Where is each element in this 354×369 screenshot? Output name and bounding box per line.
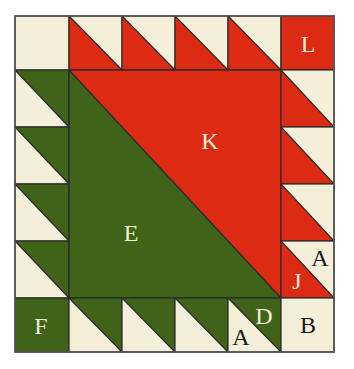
corner-top-left [15,16,69,70]
label-E: E [124,220,139,246]
top-triangle-4 [228,16,281,70]
center-square: K E [69,70,281,298]
left-triangle-1 [15,70,69,127]
bottom-triangle-3 [175,298,228,352]
bottom-triangle-2 [122,298,175,352]
label-F: F [34,313,47,339]
corner-top-right: L [281,16,334,70]
bottom-border: D A [69,298,281,352]
label-L: L [301,31,316,57]
left-triangle-3 [15,184,69,241]
right-triangle-2 [281,127,334,184]
top-triangle-2 [122,16,175,70]
bottom-triangle-4: D A [228,298,281,352]
label-J: J [292,268,301,294]
bottom-triangle-1 [69,298,122,352]
left-triangle-2 [15,127,69,184]
label-A-right: A [311,245,329,271]
left-triangle-4 [15,241,69,298]
corner-bottom-left: F [15,298,69,352]
left-border [15,70,69,298]
top-border [69,16,281,70]
label-B: B [300,312,316,338]
top-triangle-1 [69,16,122,70]
label-K: K [201,128,219,154]
right-triangle-1 [281,70,334,127]
label-D: D [255,303,272,329]
right-triangle-4: J A [281,241,334,298]
top-triangle-3 [175,16,228,70]
right-border: J A [281,70,334,298]
corner-bottom-right: B [281,298,334,352]
right-triangle-3 [281,184,334,241]
quilt-block-diagram: L K [0,0,354,369]
label-A-bottom: A [232,324,250,350]
